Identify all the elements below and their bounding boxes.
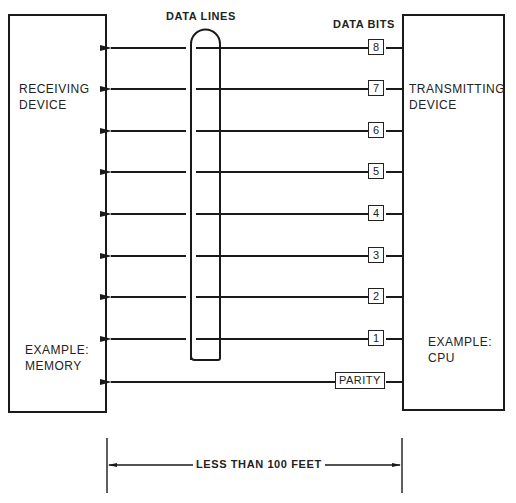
data-lines-title: DATA LINES	[166, 10, 236, 22]
data-line-wires	[111, 48, 403, 382]
transmitting-device-label: TRANSMITTING DEVICE	[409, 81, 505, 113]
data-bit-4: 4	[368, 205, 384, 221]
transmitter-example-label: EXAMPLE: CPU	[428, 334, 492, 366]
data-bit-5: 5	[368, 163, 384, 179]
data-bits-title: DATA BITS	[333, 18, 395, 30]
receiver-example-label: EXAMPLE: MEMORY	[25, 342, 89, 374]
data-bit-8: 8	[368, 39, 384, 55]
parity-bit: PARITY	[335, 372, 385, 389]
data-bit-1: 1	[368, 330, 384, 346]
data-bit-2: 2	[368, 288, 384, 304]
receiving-device-label: RECEIVING DEVICE	[19, 81, 90, 113]
data-bit-6: 6	[368, 122, 384, 138]
data-lines-cable	[191, 30, 220, 361]
diagram-canvas	[0, 0, 516, 503]
data-bit-7: 7	[368, 80, 384, 96]
data-bit-3: 3	[368, 247, 384, 263]
distance-label: LESS THAN 100 FEET	[193, 458, 325, 470]
